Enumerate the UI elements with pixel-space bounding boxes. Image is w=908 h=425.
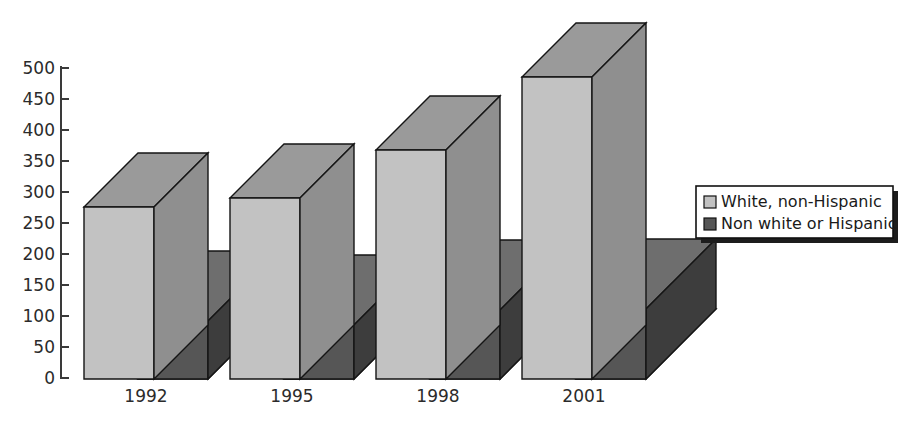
y-axis <box>61 66 69 379</box>
legend-label: White, non-Hispanic <box>721 192 882 211</box>
y-tick-label: 500 <box>23 58 55 78</box>
dark-gray-swatch <box>704 218 716 230</box>
y-tick-label: 250 <box>23 213 55 233</box>
y-tick-label: 0 <box>44 368 55 388</box>
bar-chart: 500 450 400 350 300 250 200 150 100 50 0 <box>0 0 908 425</box>
bar-light-1995[interactable] <box>230 144 354 379</box>
legend-item-white-non-hispanic[interactable]: White, non-Hispanic <box>704 192 882 211</box>
y-tick-label: 50 <box>33 337 55 357</box>
y-tick-label: 350 <box>23 151 55 171</box>
bar-light-2001[interactable] <box>522 23 646 379</box>
x-category-label: 1995 <box>270 386 313 406</box>
x-category-label: 1992 <box>124 386 167 406</box>
chart-canvas: 500 450 400 350 300 250 200 150 100 50 0 <box>0 0 908 425</box>
legend-item-non-white-or-hispanic[interactable]: Non white or Hispanic <box>704 214 896 233</box>
x-category-label: 2001 <box>562 386 605 406</box>
y-tick-label: 100 <box>23 306 55 326</box>
y-tick-label: 400 <box>23 120 55 140</box>
y-tick-label: 200 <box>23 244 55 264</box>
y-tick-label: 450 <box>23 89 55 109</box>
x-category-label: 1998 <box>416 386 459 406</box>
bar-light-1998[interactable] <box>376 96 500 379</box>
y-axis-tick-labels: 500 450 400 350 300 250 200 150 100 50 0 <box>23 58 55 388</box>
y-tick-label: 150 <box>23 275 55 295</box>
legend-label: Non white or Hispanic <box>721 214 896 233</box>
legend: White, non-Hispanic Non white or Hispani… <box>696 186 898 243</box>
bar-group-2001: 2001 <box>522 23 716 406</box>
y-tick-label: 300 <box>23 182 55 202</box>
light-gray-swatch <box>704 196 716 208</box>
